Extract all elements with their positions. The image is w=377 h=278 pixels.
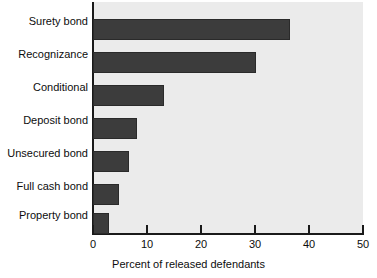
bar xyxy=(93,151,129,172)
bar xyxy=(93,213,109,234)
bar xyxy=(93,184,119,205)
x-tick-label: 40 xyxy=(303,238,315,250)
bar xyxy=(93,85,164,106)
category-label: Full cash bond xyxy=(0,180,88,193)
x-tick-label: 10 xyxy=(141,238,153,250)
x-tick-label: 20 xyxy=(195,238,207,250)
category-label: Property bond xyxy=(0,209,88,222)
category-label: Unsecured bond xyxy=(0,147,88,160)
category-label: Surety bond xyxy=(0,15,88,28)
x-tick-mark xyxy=(308,225,310,234)
x-axis-line xyxy=(92,233,364,235)
bar xyxy=(93,19,290,40)
bar-chart: Surety bond Recognizance Conditional Dep… xyxy=(0,0,377,278)
category-label: Conditional xyxy=(0,81,88,94)
bar xyxy=(93,52,256,73)
x-tick-label: 50 xyxy=(357,238,369,250)
category-axis-labels: Surety bond Recognizance Conditional Dep… xyxy=(0,2,88,233)
bar xyxy=(93,118,137,139)
x-tick-mark xyxy=(254,225,256,234)
x-tick-label: 0 xyxy=(90,238,96,250)
x-tick-mark xyxy=(92,225,94,234)
bars-layer xyxy=(93,2,363,233)
x-tick-mark xyxy=(200,225,202,234)
x-tick-mark xyxy=(146,225,148,234)
x-axis-title: Percent of released defendants xyxy=(0,258,377,270)
x-tick-label: 30 xyxy=(249,238,261,250)
category-label: Recognizance xyxy=(0,48,88,61)
x-tick-mark xyxy=(362,225,364,234)
category-label: Deposit bond xyxy=(0,114,88,127)
